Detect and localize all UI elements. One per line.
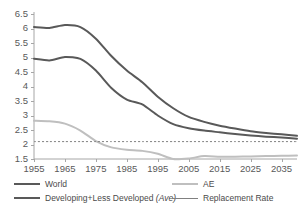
fertility-rate-chart: 1.522.533.544.555.566.5 1955196519751985…	[0, 0, 301, 213]
series-line-ae	[34, 121, 297, 159]
x-axis-tick-label: 1985	[110, 164, 144, 174]
legend-label: AE	[203, 180, 214, 189]
legend-swatch-line-icon	[172, 198, 198, 199]
x-axis-tick-label: 1965	[48, 164, 82, 174]
x-axis-tick-label: 1995	[141, 164, 175, 174]
y-axis-tick-label: 1.5	[4, 154, 28, 164]
legend-swatch-line-icon	[14, 197, 40, 199]
y-axis-tick-label: 4	[4, 81, 28, 91]
x-axis-tick-label: 1975	[79, 164, 113, 174]
y-axis-tick-label: 4.5	[4, 67, 28, 77]
legend-label: World	[45, 180, 67, 189]
x-axis-tick-label: 2035	[265, 164, 299, 174]
legend-swatch-line-icon	[172, 183, 198, 185]
x-axis-tick-label: 2025	[234, 164, 268, 174]
legend-label: Developing+Less Developed (Ave)	[45, 194, 176, 203]
x-axis-tick-label: 2015	[203, 164, 237, 174]
chart-legend: WorldAEDeveloping+Less Developed (Ave)Re…	[0, 176, 301, 213]
y-axis-tick-label: 2.5	[4, 125, 28, 135]
x-axis-tick-label: 1955	[17, 164, 51, 174]
y-axis-tick-label: 2	[4, 139, 28, 149]
legend-label: Replacement Rate	[203, 194, 273, 203]
legend-swatch-line-icon	[14, 183, 40, 185]
y-axis-tick-label: 5	[4, 52, 28, 62]
legend-item[interactable]: AE	[172, 178, 214, 190]
legend-item[interactable]: World	[14, 178, 67, 190]
y-axis-tick-label: 5.5	[4, 38, 28, 48]
y-axis-tick-label: 3	[4, 110, 28, 120]
x-axis-tick-label: 2005	[172, 164, 206, 174]
legend-item[interactable]: Replacement Rate	[172, 192, 273, 204]
y-axis-tick-label: 3.5	[4, 96, 28, 106]
y-axis-tick-label: 6	[4, 23, 28, 33]
legend-item[interactable]: Developing+Less Developed (Ave)	[14, 192, 176, 204]
y-axis-tick-label: 6.5	[4, 9, 28, 19]
